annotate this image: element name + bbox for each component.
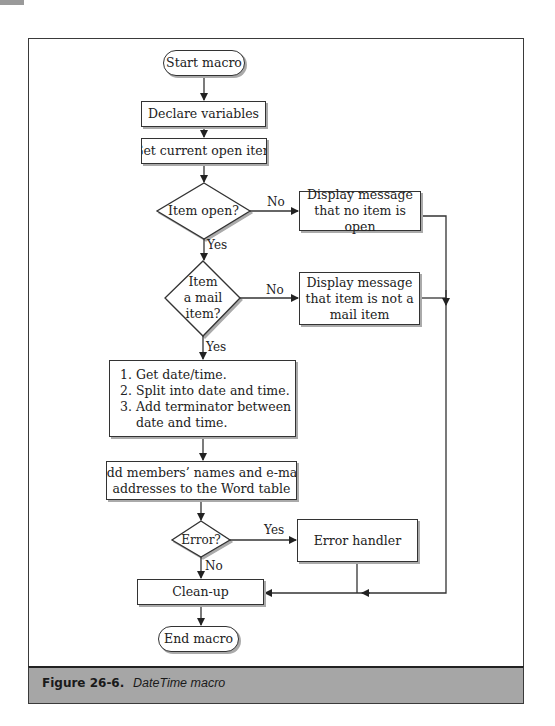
mail-item-line1: Item (188, 274, 217, 290)
error-handler-label: Error handler (314, 533, 401, 549)
figure-caption: Figure 26-6. DateTime macro (28, 666, 524, 704)
step-3: 3. Add terminator between (120, 399, 295, 415)
add-members-line2: addresses to the Word table (113, 481, 291, 497)
get-current-item-node: Get current open item (141, 138, 267, 164)
error-no-label: No (205, 559, 223, 573)
msg-no-item-line2: that no item is open (300, 203, 420, 235)
error-label: Error? (181, 532, 221, 548)
error-handler-node: Error handler (297, 519, 418, 562)
figure-number: Figure 26-6. (42, 676, 124, 690)
msg-not-mail-line3: mail item (330, 307, 390, 323)
end-macro-label: End macro (164, 631, 233, 647)
figure-title: DateTime macro (133, 676, 225, 690)
cleanup-label: Clean-up (172, 584, 229, 600)
msg-not-mail-node: Display message that item is not a mail … (299, 272, 420, 325)
add-members-node: Add members’ names and e-mail addresses … (106, 461, 297, 500)
end-macro-node: End macro (158, 626, 239, 652)
get-current-item-label: Get current open item (141, 143, 267, 159)
mail-yes-label: Yes (206, 340, 226, 354)
error-decision: Error? (172, 530, 230, 550)
add-members-line1: Add members’ names and e-mail (106, 465, 297, 481)
mail-item-line2: a mail (184, 290, 223, 306)
declare-variables-node: Declare variables (141, 101, 266, 127)
step-3-cont: date and time. (120, 415, 295, 431)
msg-no-item-node: Display message that no item is open (299, 191, 421, 231)
msg-not-mail-line1: Display message (307, 275, 413, 291)
cleanup-node: Clean-up (137, 579, 264, 605)
start-macro-node: Start macro (163, 50, 245, 76)
error-yes-label: Yes (264, 523, 284, 537)
declare-variables-label: Declare variables (148, 106, 259, 122)
start-macro-label: Start macro (166, 55, 242, 71)
item-open-yes-label: Yes (207, 238, 227, 252)
item-open-label: Item open? (168, 203, 239, 219)
item-open-decision: Item open? (157, 200, 250, 222)
mail-no-label: No (266, 283, 284, 297)
step-2: 2. Split into date and time. (120, 383, 295, 399)
step-1: 1. Get date/time. (120, 367, 295, 383)
msg-not-mail-line2: that item is not a (305, 291, 413, 307)
mail-item-line3: item? (186, 306, 221, 322)
msg-no-item-line1: Display message (307, 187, 413, 203)
item-open-no-label: No (267, 195, 285, 209)
mail-item-decision: Item a mail item? (165, 272, 241, 324)
date-time-steps-node: 1. Get date/time. 2. Split into date and… (109, 360, 296, 437)
